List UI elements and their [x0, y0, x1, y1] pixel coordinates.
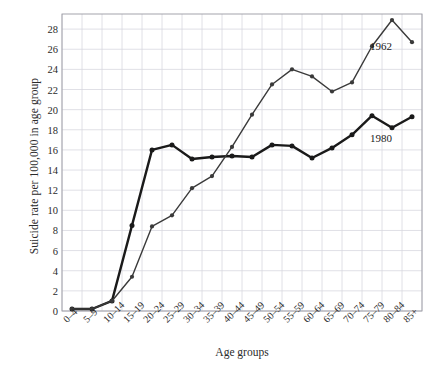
- x-tick-label: 25–29: [161, 299, 186, 324]
- x-tick-label: 40–44: [221, 299, 246, 324]
- x-tick-label: 80–84: [381, 299, 406, 324]
- x-tick-label: 50–54: [261, 299, 286, 324]
- x-tick-label: 60–64: [301, 299, 326, 324]
- x-tick-label: 0–4: [61, 306, 79, 324]
- x-tick-label: 20–24: [141, 299, 166, 324]
- x-tick-label: 45–49: [241, 299, 266, 324]
- series-annotation-1980: 1980: [370, 132, 392, 144]
- x-axis-title: Age groups: [62, 346, 422, 358]
- x-axis-tick-labels: 0–45–910–1415–1920–2425–2930–3435–3940–4…: [0, 0, 436, 370]
- x-tick-label: 15–19: [121, 299, 146, 324]
- chart-container: Suicide rate per 100,000 in age group 02…: [0, 0, 436, 370]
- x-tick-label: 30–34: [181, 299, 206, 324]
- x-tick-label: 65–69: [321, 299, 346, 324]
- x-tick-label: 75–79: [361, 299, 386, 324]
- x-tick-label: 70–74: [341, 299, 366, 324]
- x-tick-label: 10–14: [101, 299, 126, 324]
- series-annotation-1962: 1962: [370, 40, 392, 52]
- x-tick-label: 5–9: [81, 306, 99, 324]
- x-tick-label: 55–59: [281, 299, 306, 324]
- x-tick-label: 35–39: [201, 299, 226, 324]
